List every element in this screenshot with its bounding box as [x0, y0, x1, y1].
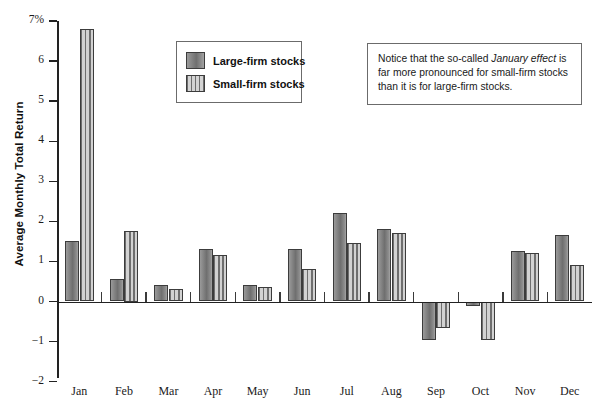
- annotation-text-emphasis: January effect: [491, 53, 556, 64]
- y-tick-label: −2: [0, 374, 44, 386]
- bar-mar-small-firm: [169, 289, 183, 302]
- x-separator-tick: [101, 292, 102, 302]
- bar-jul-small-firm: [347, 243, 361, 301]
- bar-dec-small-firm: [570, 265, 584, 301]
- x-separator-tick: [145, 292, 146, 302]
- y-tick-label: 7%: [0, 13, 44, 25]
- y-tick-mark: [49, 341, 57, 342]
- bar-sep-large-firm: [422, 302, 436, 340]
- x-separator-tick: [368, 292, 369, 302]
- legend-item-small-firm: Small-firm stocks: [186, 72, 301, 95]
- y-tick-mark: [49, 181, 57, 182]
- x-separator-tick: [547, 292, 548, 302]
- y-tick-label: 1: [0, 253, 44, 265]
- legend-item-large-firm: Large-firm stocks: [186, 49, 301, 72]
- bar-aug-large-firm: [377, 229, 391, 301]
- bar-jun-small-firm: [302, 269, 316, 302]
- annotation-text-pre: Notice that the so-called: [378, 53, 491, 64]
- bar-nov-large-firm: [511, 251, 525, 301]
- x-separator-tick: [190, 292, 191, 302]
- y-tick-label: 5: [0, 93, 44, 105]
- y-tick-label: 2: [0, 213, 44, 225]
- bar-jan-large-firm: [65, 241, 79, 302]
- bar-nov-small-firm: [525, 253, 539, 301]
- y-tick-mark: [49, 60, 57, 61]
- bar-may-large-firm: [243, 285, 257, 301]
- y-tick-label: −1: [0, 334, 44, 346]
- y-tick-label: 0: [0, 294, 44, 306]
- bar-apr-small-firm: [213, 255, 227, 301]
- y-tick-mark: [49, 20, 57, 21]
- legend-swatch-large-firm-icon: [186, 52, 205, 69]
- bar-chart: Average Monthly Total Return 7%6543210−1…: [0, 0, 601, 408]
- y-tick-label: 4: [0, 133, 44, 145]
- x-tick-label-dec: Dec: [540, 384, 600, 399]
- bar-may-small-firm: [258, 287, 272, 302]
- bar-feb-large-firm: [110, 279, 124, 301]
- bar-oct-small-firm: [481, 302, 495, 340]
- x-separator-tick: [324, 292, 325, 302]
- y-tick-mark: [49, 261, 57, 262]
- bar-jun-large-firm: [288, 249, 302, 301]
- legend-label-small-firm: Small-firm stocks: [213, 78, 305, 90]
- bar-mar-large-firm: [154, 285, 168, 301]
- y-tick-mark: [49, 141, 57, 142]
- y-tick-label: 3: [0, 173, 44, 185]
- annotation-text: Notice that the so-called January effect…: [378, 52, 572, 95]
- y-tick-mark: [49, 100, 57, 101]
- x-separator-tick: [502, 292, 503, 302]
- y-tick-mark: [49, 381, 57, 382]
- bar-sep-small-firm: [436, 302, 450, 328]
- legend-label-large-firm: Large-firm stocks: [213, 55, 305, 67]
- annotation-box: Notice that the so-called January effect…: [367, 43, 582, 105]
- legend-swatch-small-firm-icon: [186, 75, 205, 92]
- bar-feb-small-firm: [124, 231, 138, 301]
- bar-aug-small-firm: [392, 233, 406, 302]
- bar-jul-large-firm: [333, 213, 347, 301]
- legend: Large-firm stocks Small-firm stocks: [176, 41, 302, 103]
- bar-jan-small-firm: [80, 29, 94, 301]
- y-tick-mark: [49, 221, 57, 222]
- x-separator-tick: [279, 292, 280, 302]
- bar-dec-large-firm: [555, 235, 569, 302]
- bar-apr-large-firm: [199, 249, 213, 301]
- y-tick-label: 6: [0, 53, 44, 65]
- x-separator-tick: [235, 292, 236, 302]
- x-separator-tick: [413, 292, 414, 302]
- x-separator-tick: [458, 292, 459, 302]
- zero-baseline: [57, 302, 592, 304]
- y-tick-mark: [49, 301, 57, 302]
